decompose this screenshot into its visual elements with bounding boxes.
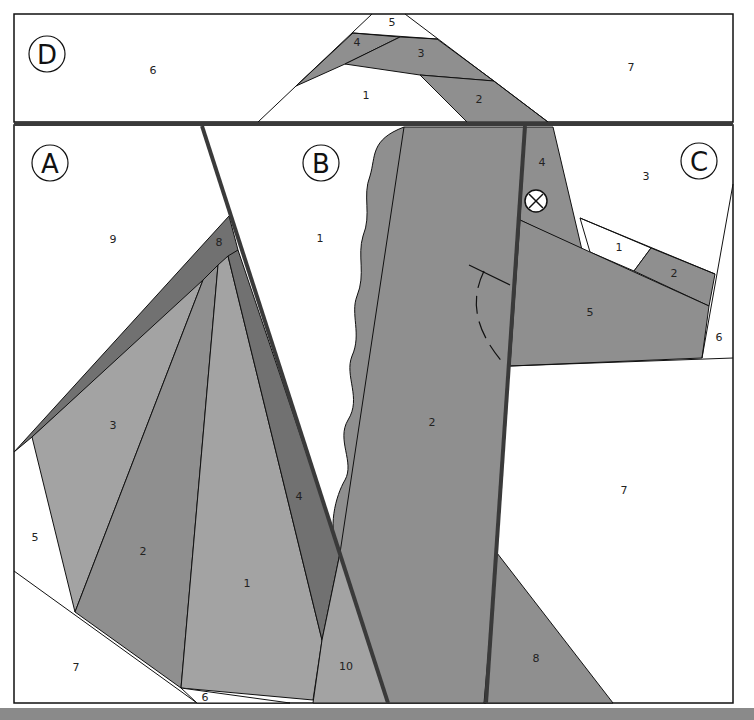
piece-a7-label: 7 [73,661,80,674]
section-a-label: A [41,149,59,179]
piece-d2-label: 2 [476,93,483,106]
section-d: D 6 1 2 3 4 5 7 [14,14,733,122]
piece-a9-label: 9 [110,233,117,246]
piece-d3-label: 3 [418,47,425,60]
piece-a2-label: 2 [140,545,147,558]
piece-c5-label: 5 [587,306,594,319]
piece-a4-label: 4 [296,490,303,503]
piece-d5-label: 5 [389,16,396,29]
crossed-circle-icon [525,190,547,212]
piece-c6-label: 6 [716,331,723,344]
piece-b2-label: 2 [429,416,436,429]
piece-c3-label: 3 [643,170,650,183]
piece-c4-label: 4 [539,156,546,169]
piece-a10-label: 10 [339,660,353,673]
piece-d1-label: 1 [363,89,370,102]
piece-d7-label: 7 [628,61,635,74]
piece-b1-label: 1 [317,232,324,245]
quilt-pattern-diagram: D 6 1 2 3 4 5 7 A 9 8 3 5 2 1 4 [0,0,754,720]
piece-c1-label: 1 [616,241,623,254]
piece-a1-label: 1 [244,577,251,590]
piece-c7-label: 7 [621,484,628,497]
piece-d4-label: 4 [354,36,361,49]
bottom-bar [0,708,754,720]
piece-d6-label: 6 [150,64,157,77]
section-c-label: C [690,147,708,177]
piece-a8-label: 8 [216,236,223,249]
piece-a3-label: 3 [110,419,117,432]
piece-c2-label: 2 [671,267,678,280]
piece-c8-label: 8 [533,652,540,665]
section-d-label: D [37,40,57,70]
piece-a6-label: 6 [202,691,209,704]
piece-a5-label: 5 [32,531,39,544]
section-b-label: B [312,149,330,179]
